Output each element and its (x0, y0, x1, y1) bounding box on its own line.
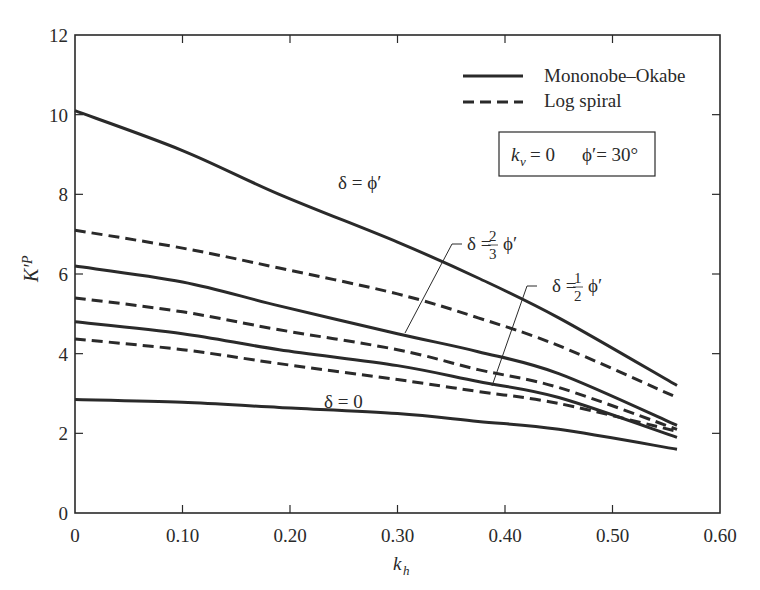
kv-value: = 0 (530, 144, 555, 165)
y-tick-label: 8 (59, 184, 69, 205)
label-delta-half: δ = 1 2 ϕ′ (552, 270, 602, 304)
phi-value: ϕ′= 30° (582, 144, 638, 165)
y-axis-label-main: K′ (20, 264, 42, 283)
kv-symbol: k (511, 144, 520, 165)
series-line-4 (75, 322, 677, 438)
series-line-1 (75, 230, 677, 397)
x-axis-label-sub: h (403, 563, 410, 578)
fraction-numerator: 2 (489, 228, 497, 244)
y-tick-label: 2 (59, 423, 69, 444)
label-phi: ϕ′ (503, 233, 517, 254)
legend: Mononobe–Okabe Log spiral (463, 65, 685, 111)
fraction-denominator: 3 (489, 246, 497, 262)
axis-tick-labels: 00.100.200.300.400.500.60024681012 (49, 25, 737, 546)
annotation-leaders (405, 244, 537, 386)
y-tick-label: 0 (59, 503, 69, 524)
x-tick-label: 0.40 (488, 525, 521, 546)
y-tick-label: 12 (49, 25, 68, 46)
y-axis-label-sub: P (20, 255, 35, 265)
label-delta-zero: δ = 0 (324, 391, 363, 412)
x-tick-label: 0.60 (703, 525, 736, 546)
label-phi: ϕ′ (588, 275, 602, 296)
y-axis-label: K′ P (20, 255, 42, 283)
fraction-numerator: 1 (574, 270, 582, 286)
x-axis-label: k h (393, 553, 410, 578)
y-tick-label: 4 (59, 344, 69, 365)
x-tick-label: 0.50 (596, 525, 629, 546)
legend-label-log-spiral: Log spiral (544, 90, 622, 111)
label-prefix: δ = (552, 275, 576, 296)
parameter-box: k v = 0 ϕ′= 30° (499, 132, 655, 176)
x-tick-label: 0 (70, 525, 80, 546)
label-prefix: δ = (467, 233, 491, 254)
y-tick-label: 6 (59, 264, 69, 285)
label-delta-two-thirds: δ = 2 3 ϕ′ (467, 228, 517, 262)
legend-label-mononobe-okabe: Mononobe–Okabe (544, 65, 685, 86)
chart: 00.100.200.300.400.500.60024681012 δ = ϕ… (0, 0, 760, 590)
x-tick-label: 0.10 (166, 525, 199, 546)
label-delta-phi: δ = ϕ′ (338, 172, 381, 193)
kv-subscript: v (520, 154, 526, 169)
y-tick-label: 10 (49, 105, 68, 126)
fraction-denominator: 2 (574, 288, 582, 304)
x-tick-label: 0.30 (381, 525, 414, 546)
x-tick-label: 0.20 (273, 525, 306, 546)
x-axis-label-main: k (393, 553, 402, 574)
